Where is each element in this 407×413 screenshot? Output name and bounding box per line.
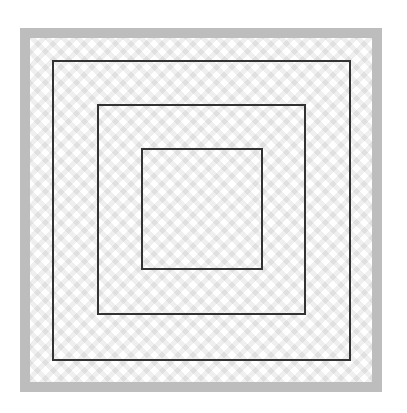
inner-square <box>141 148 263 270</box>
